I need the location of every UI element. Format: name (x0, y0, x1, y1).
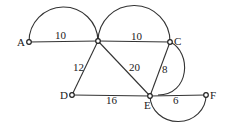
node-c (168, 40, 173, 45)
weight-d-e: 16 (106, 94, 118, 106)
weight-b-e: 20 (129, 61, 141, 73)
weight-b-d: 12 (73, 61, 84, 73)
node-e (148, 94, 153, 99)
label-c: C (174, 35, 181, 47)
weight-e-f: 6 (173, 94, 179, 106)
edge-b-e (98, 41, 150, 96)
label-e: E (144, 99, 151, 111)
node-f (204, 93, 209, 98)
node-b (96, 39, 101, 44)
label-d: D (60, 89, 68, 101)
weight-c-e: 8 (162, 63, 168, 75)
edge-a-b (29, 41, 98, 42)
node-a (27, 40, 32, 45)
weight-b-c: 10 (131, 30, 143, 42)
graph-diagram: 10 10 12 20 8 16 6 A C D E F (0, 0, 228, 126)
weight-a-b: 10 (55, 29, 67, 41)
node-d (70, 93, 75, 98)
label-f: F (210, 89, 216, 101)
label-a: A (17, 36, 25, 48)
